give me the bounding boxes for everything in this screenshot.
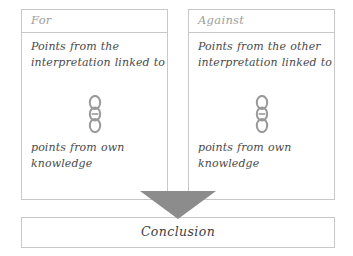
chain-link-icon-wrap-for <box>22 95 167 133</box>
argument-column-against: Against Points from the other interpreta… <box>188 9 335 200</box>
column-text-top-against: Points from the other interpretation lin… <box>198 39 332 70</box>
column-header-for: For <box>22 10 167 33</box>
column-body-for: Points from the interpretation linked to… <box>22 33 167 199</box>
column-text-top-for: Points from the interpretation linked to <box>31 39 165 70</box>
conclusion-box: Conclusion <box>21 217 335 248</box>
chain-link-icon-wrap-against <box>189 95 334 133</box>
column-body-against: Points from the other interpretation lin… <box>189 33 334 199</box>
chain-link-icon <box>87 95 103 133</box>
argument-organizer-diagram: For Points from the interpretation linke… <box>0 0 353 256</box>
arrow-down-icon <box>140 191 216 219</box>
conclusion-label: Conclusion <box>141 226 215 239</box>
column-header-against: Against <box>189 10 334 33</box>
argument-column-for: For Points from the interpretation linke… <box>21 9 168 200</box>
chain-link-icon <box>254 95 270 133</box>
column-text-bottom-for: points from own knowledge <box>31 140 165 171</box>
column-header-label-for: For <box>31 15 52 27</box>
column-text-bottom-against: points from own knowledge <box>198 140 332 171</box>
column-header-label-against: Against <box>198 15 244 27</box>
